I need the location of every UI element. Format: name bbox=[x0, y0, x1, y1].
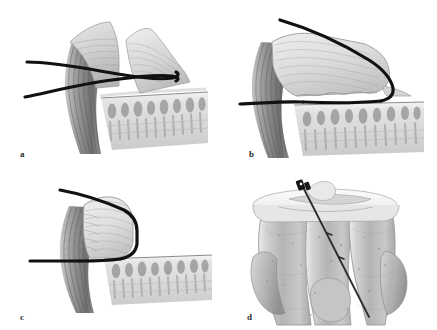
panel-c: c bbox=[0, 165, 219, 330]
panel-c-artwork bbox=[0, 165, 219, 330]
panel-label-d: d bbox=[247, 313, 252, 322]
panel-label-a: a bbox=[20, 150, 25, 159]
muscle-belly-b bbox=[252, 42, 295, 159]
tendon-flap-b bbox=[272, 33, 411, 96]
tendon-flap-a bbox=[70, 22, 119, 88]
panel-b: b bbox=[219, 0, 437, 165]
bone-block-a bbox=[101, 92, 208, 150]
bone-block-c bbox=[104, 255, 212, 305]
muscle-belly-c bbox=[60, 206, 100, 314]
suture-strands-a bbox=[25, 62, 178, 97]
proximal-bone-d bbox=[251, 217, 407, 325]
suture-strands-b bbox=[240, 20, 393, 104]
tendon-flap-c bbox=[63, 197, 133, 258]
guide-pin-d bbox=[296, 179, 369, 317]
tendon-stump-a bbox=[126, 28, 190, 93]
panel-a-artwork bbox=[0, 0, 219, 165]
pin-head-d bbox=[296, 179, 312, 191]
articular-surface-d bbox=[253, 181, 399, 222]
panel-label-b: b bbox=[249, 150, 254, 159]
panel-b-artwork bbox=[219, 0, 437, 165]
bone-block-b bbox=[294, 102, 424, 156]
panel-a: a bbox=[0, 0, 219, 165]
figure-root: a bbox=[0, 0, 437, 330]
panel-label-c: c bbox=[20, 313, 24, 322]
muscle-belly-a bbox=[65, 41, 108, 155]
suture-strands-c bbox=[30, 190, 137, 261]
panel-d-artwork bbox=[219, 165, 437, 330]
panel-d: d bbox=[219, 165, 437, 330]
